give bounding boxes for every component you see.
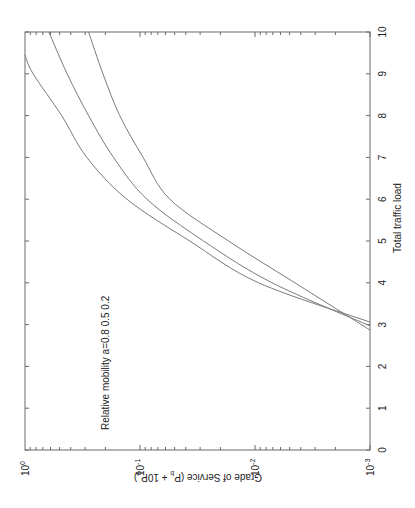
x-axis-label: Total traffic load	[392, 183, 403, 253]
annotation-relative-mobility: Relative mobility a=0.8 0.5 0.2	[100, 295, 111, 430]
x-tick-label: 2	[377, 363, 388, 369]
x-tick-label: 8	[377, 112, 388, 118]
x-tick-label: 3	[377, 321, 388, 327]
axis-labels: 01234567891010010-110-210-3Grade of Serv…	[19, 26, 388, 483]
y-tick-label: 10-3	[364, 459, 376, 476]
plot-area-border	[25, 32, 370, 450]
axis-ticks	[25, 32, 370, 450]
plot-frame	[25, 32, 370, 450]
x-tick-label: 4	[377, 280, 388, 286]
x-tick-label: 1	[377, 405, 388, 411]
x-tick-label: 5	[377, 238, 388, 244]
x-tick-label: 0	[377, 447, 388, 453]
y-tick-label: 100	[19, 461, 31, 476]
chart: 01234567891010010-110-210-3Grade of Serv…	[0, 0, 415, 508]
y-axis-label: Grade of Service (Pb + 10Pd)	[134, 470, 262, 483]
x-tick-label: 6	[377, 196, 388, 202]
curve-a-0-8	[25, 55, 370, 322]
x-tick-label: 10	[377, 26, 388, 38]
data-curves	[25, 32, 370, 330]
x-tick-label: 7	[377, 154, 388, 160]
curve-a-0-5	[49, 32, 370, 326]
x-tick-label: 9	[377, 71, 388, 77]
